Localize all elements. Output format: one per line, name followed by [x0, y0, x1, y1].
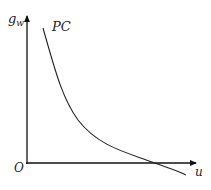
pc-curve: [43, 28, 186, 175]
y-axis-label: gw: [8, 11, 24, 28]
phillips-curve-chart: gw PC O u: [0, 0, 211, 190]
origin-label: O: [14, 161, 24, 175]
x-axis-label: u: [195, 165, 203, 179]
curve-label: PC: [51, 19, 71, 34]
